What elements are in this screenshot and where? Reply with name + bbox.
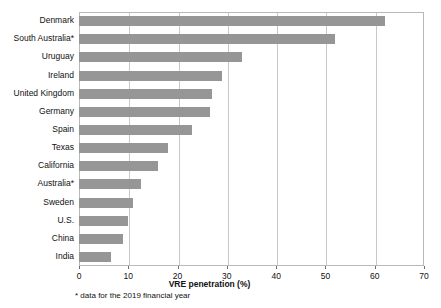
bar — [79, 198, 133, 208]
chart-figure: DenmarkSouth Australia*UruguayIrelandUni… — [0, 0, 441, 308]
bar — [79, 252, 111, 262]
bar — [79, 216, 128, 226]
bar — [79, 71, 222, 81]
y-axis-label: U.S. — [0, 216, 74, 225]
bar — [79, 161, 158, 171]
bar — [79, 234, 123, 244]
bar — [79, 107, 210, 117]
y-axis-label: India — [0, 252, 74, 261]
bar — [79, 179, 141, 189]
x-tick-mark — [79, 266, 80, 269]
x-axis-title-text: VRE penetration (%) — [169, 279, 251, 289]
bar — [79, 125, 192, 135]
x-tick-mark — [375, 266, 376, 269]
x-axis-title: VRE penetration (%) — [0, 279, 441, 289]
x-tick-mark — [424, 266, 425, 269]
x-tick-mark — [227, 266, 228, 269]
y-axis-label: Ireland — [0, 71, 74, 80]
y-axis-label: South Australia* — [0, 34, 74, 43]
y-axis-label: Denmark — [0, 16, 74, 25]
chart-footnote: * data for the 2019 financial year — [75, 291, 190, 301]
y-axis-label: Germany — [0, 107, 74, 116]
y-axis-category-labels: DenmarkSouth Australia*UruguayIrelandUni… — [0, 12, 74, 266]
y-axis-label: Uruguay — [0, 52, 74, 61]
bar — [79, 34, 335, 44]
bar — [79, 89, 212, 99]
x-tick-mark — [325, 266, 326, 269]
bar — [79, 52, 242, 62]
y-axis-label: Australia* — [0, 179, 74, 188]
bar — [79, 143, 168, 153]
x-tick-mark — [276, 266, 277, 269]
y-axis-label: Sweden — [0, 198, 74, 207]
bar — [79, 16, 385, 26]
y-axis-label: United Kingdom — [0, 89, 74, 98]
y-axis-label: Spain — [0, 125, 74, 134]
x-tick-mark — [178, 266, 179, 269]
y-axis-label: California — [0, 161, 74, 170]
y-axis-label: China — [0, 234, 74, 243]
x-tick-mark — [128, 266, 129, 269]
bars-layer — [79, 12, 424, 266]
y-axis-label: Texas — [0, 143, 74, 152]
